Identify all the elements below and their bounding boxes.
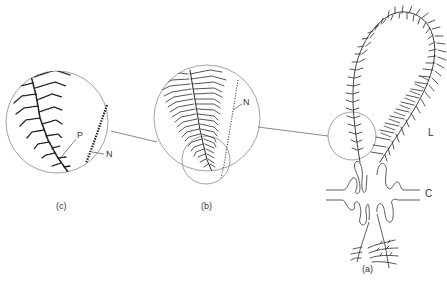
caption-c: (c) xyxy=(56,202,67,211)
lower-fibrils xyxy=(351,240,398,264)
connector-b-a xyxy=(258,127,328,136)
lampbrush-loop xyxy=(346,6,446,162)
pointer-line-p xyxy=(59,139,76,160)
caption-a: (a) xyxy=(362,265,373,274)
pointer-line-n-b xyxy=(233,104,242,110)
inner-circle-b xyxy=(182,136,230,184)
label-n-c: N xyxy=(106,150,113,159)
panel-c xyxy=(6,70,108,173)
label-c: C xyxy=(425,189,432,199)
chromosome-axis xyxy=(326,161,420,268)
label-p: P xyxy=(77,131,83,140)
connector-c-b xyxy=(111,131,157,142)
label-l: L xyxy=(428,128,434,138)
diagram-svg xyxy=(0,0,447,283)
chromatin-fiber-b xyxy=(162,70,226,176)
caption-b: (b) xyxy=(201,202,212,211)
panel-b xyxy=(154,65,260,184)
label-n-b: N xyxy=(243,98,250,107)
magnify-circle-a xyxy=(328,112,376,160)
diagram-figure: P N N L C (c) (b) (a) xyxy=(0,0,447,283)
